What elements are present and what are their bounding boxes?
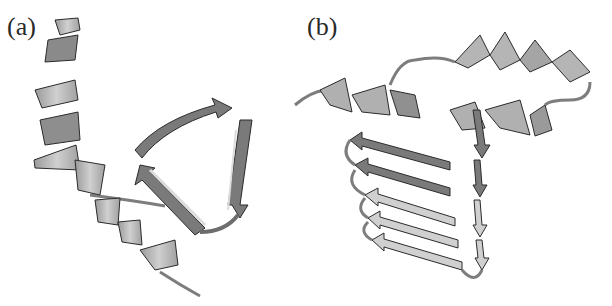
beta-helix-b bbox=[350, 110, 490, 270]
panel-b: (b) bbox=[290, 0, 612, 306]
alpha-helix-a bbox=[34, 18, 178, 270]
ribbon-diagram-a bbox=[0, 0, 300, 306]
alpha-helix-top-b bbox=[455, 32, 590, 82]
alpha-helix-left-b bbox=[320, 78, 552, 136]
beta-sheet-a bbox=[135, 98, 252, 235]
ribbon-diagram-b bbox=[290, 0, 612, 306]
panel-a: (a) bbox=[0, 0, 300, 306]
